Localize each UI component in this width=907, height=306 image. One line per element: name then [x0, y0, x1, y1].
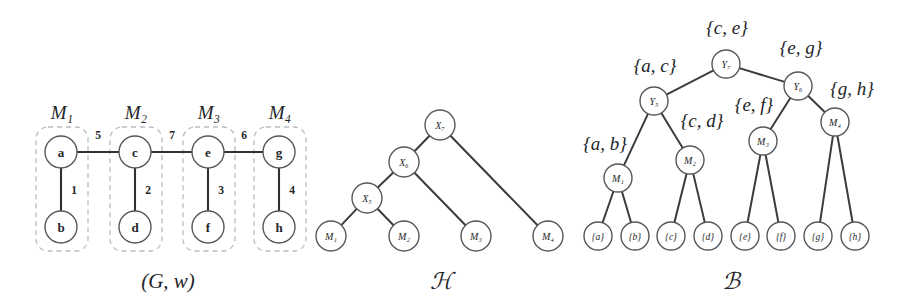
tree-node: {d} — [694, 222, 722, 250]
vertex-label: b — [57, 220, 64, 235]
tree-edge — [341, 209, 356, 225]
set-label: {g, h} — [830, 78, 874, 99]
caption-b: ℬ — [722, 268, 742, 294]
tree-edge — [820, 136, 833, 222]
vertex-label: a — [58, 145, 65, 160]
tree-node: X₆ — [389, 147, 419, 177]
tree-node: {e} — [731, 222, 759, 250]
set-label: {e, g} — [780, 37, 823, 58]
tree-node-label: M₄ — [828, 117, 841, 128]
tree-node: Y₆ — [784, 72, 812, 100]
tree-node-label: X₇ — [434, 120, 445, 131]
tree-node: {h} — [841, 222, 869, 250]
graph-vertex: a — [45, 136, 77, 168]
edge-weight-label: 1 — [71, 184, 77, 196]
tree-edge — [622, 191, 631, 222]
tree-edge — [450, 136, 537, 225]
tree-node-label: M₄ — [541, 231, 554, 242]
tree-node: M₁ — [604, 164, 632, 192]
tree-node: {b} — [621, 222, 649, 250]
set-label: {a, c} — [634, 55, 677, 76]
tree-leaf-label: {f} — [776, 232, 786, 242]
tree-leaf-label: {h} — [849, 232, 862, 242]
tree-edge — [808, 96, 825, 112]
caption-h: ℋ — [430, 268, 456, 294]
figure-svg: abcdefgh 1234576 M₁M₂M₃M₄ (G, w) X₇X₆X₅M… — [0, 0, 907, 306]
tree-node: M₃ — [461, 221, 491, 251]
tree-edge — [771, 98, 791, 129]
tree-node-label: X₅ — [361, 193, 372, 204]
tree-node: M₁ — [316, 221, 346, 251]
tree-edge — [766, 155, 779, 222]
graph-vertex: h — [263, 211, 295, 243]
tree-node-label: Y₆ — [793, 81, 803, 92]
tree-leaf-label: {e} — [739, 232, 751, 242]
caption-graph: (G, w) — [141, 269, 195, 293]
edge-weight-label: 6 — [241, 129, 247, 141]
panel-hierarchy-h: X₇X₆X₅M₁M₂M₃M₄ ℋ — [316, 110, 563, 294]
tree-node-label: X₆ — [398, 157, 409, 168]
vertex-label: h — [275, 220, 283, 235]
tree-edge — [624, 114, 648, 166]
tree-leaf-label: {d} — [702, 232, 715, 242]
tree-leaf-label: {g} — [812, 232, 825, 242]
panel-hierarchy-b: Y₇Y₅Y₆M₁M₂M₃M₄{a}{b}{c}{d}{e}{f}{g}{h} {… — [583, 17, 874, 295]
b-tree-edges — [603, 68, 853, 223]
figure-container: abcdefgh 1234576 M₁M₂M₃M₄ (G, w) X₇X₆X₅M… — [0, 0, 907, 306]
h-tree-nodes: X₇X₆X₅M₁M₂M₃M₄ — [316, 110, 563, 251]
tree-edge — [837, 136, 852, 222]
tree-node: M₂ — [389, 221, 419, 251]
tree-node-label: Y₇ — [721, 59, 731, 70]
cluster-label: M₄ — [268, 102, 291, 123]
tree-edge — [414, 136, 429, 151]
edge-weight-label: 4 — [289, 184, 295, 196]
tree-leaf-label: {c} — [665, 232, 677, 242]
tree-node: {a} — [584, 222, 612, 250]
set-label: {c, d} — [681, 110, 724, 131]
tree-edge — [748, 155, 761, 222]
tree-node-label: M₁ — [611, 173, 624, 184]
set-label: {e, f} — [735, 94, 774, 115]
vertex-label: g — [276, 145, 283, 160]
tree-node: Y₅ — [640, 87, 668, 115]
edge-weight-label: 5 — [95, 129, 101, 141]
cluster-label: M₂ — [124, 102, 148, 123]
edge-weight-label: 3 — [218, 184, 224, 196]
tree-edge — [674, 174, 686, 223]
tree-node: {f} — [767, 222, 795, 250]
tree-node-label: M₂ — [397, 231, 410, 242]
set-label: {a, b} — [583, 133, 627, 154]
tree-edge — [378, 172, 393, 187]
tree-node-label: M₃ — [469, 231, 482, 242]
edge-weight-label: 2 — [145, 184, 151, 196]
tree-edge — [693, 174, 705, 223]
graph-edges — [61, 152, 279, 211]
vertex-label: d — [131, 220, 139, 235]
graph-vertex: g — [263, 136, 295, 168]
edge-weight-label: 7 — [169, 129, 175, 141]
tree-node: X₅ — [352, 183, 382, 213]
cluster-labels: M₁M₂M₃M₄ — [50, 102, 291, 123]
tree-edge — [414, 173, 465, 225]
vertex-label: c — [132, 145, 138, 160]
vertex-label: e — [205, 145, 211, 160]
tree-node-label: M₂ — [683, 155, 696, 166]
vertex-label: f — [206, 220, 211, 235]
tree-node: M₂ — [676, 146, 704, 174]
tree-node-label: Y₅ — [649, 96, 659, 107]
graph-vertex: b — [45, 211, 77, 243]
tree-node: Y₇ — [712, 50, 740, 78]
tree-edge — [603, 191, 614, 223]
tree-edge — [661, 113, 682, 148]
tree-node: {g} — [804, 222, 832, 250]
tree-leaf-label: {b} — [629, 232, 642, 242]
tree-node: M₄ — [821, 108, 849, 136]
tree-node-label: M₃ — [756, 136, 769, 147]
graph-vertex: f — [192, 211, 224, 243]
graph-vertex: d — [119, 211, 151, 243]
tree-node: {c} — [657, 222, 685, 250]
tree-node: M₃ — [749, 127, 777, 155]
panel-weighted-graph: abcdefgh 1234576 M₁M₂M₃M₄ (G, w) — [36, 102, 306, 294]
tree-node: M₄ — [533, 221, 563, 251]
graph-vertex: c — [119, 136, 151, 168]
